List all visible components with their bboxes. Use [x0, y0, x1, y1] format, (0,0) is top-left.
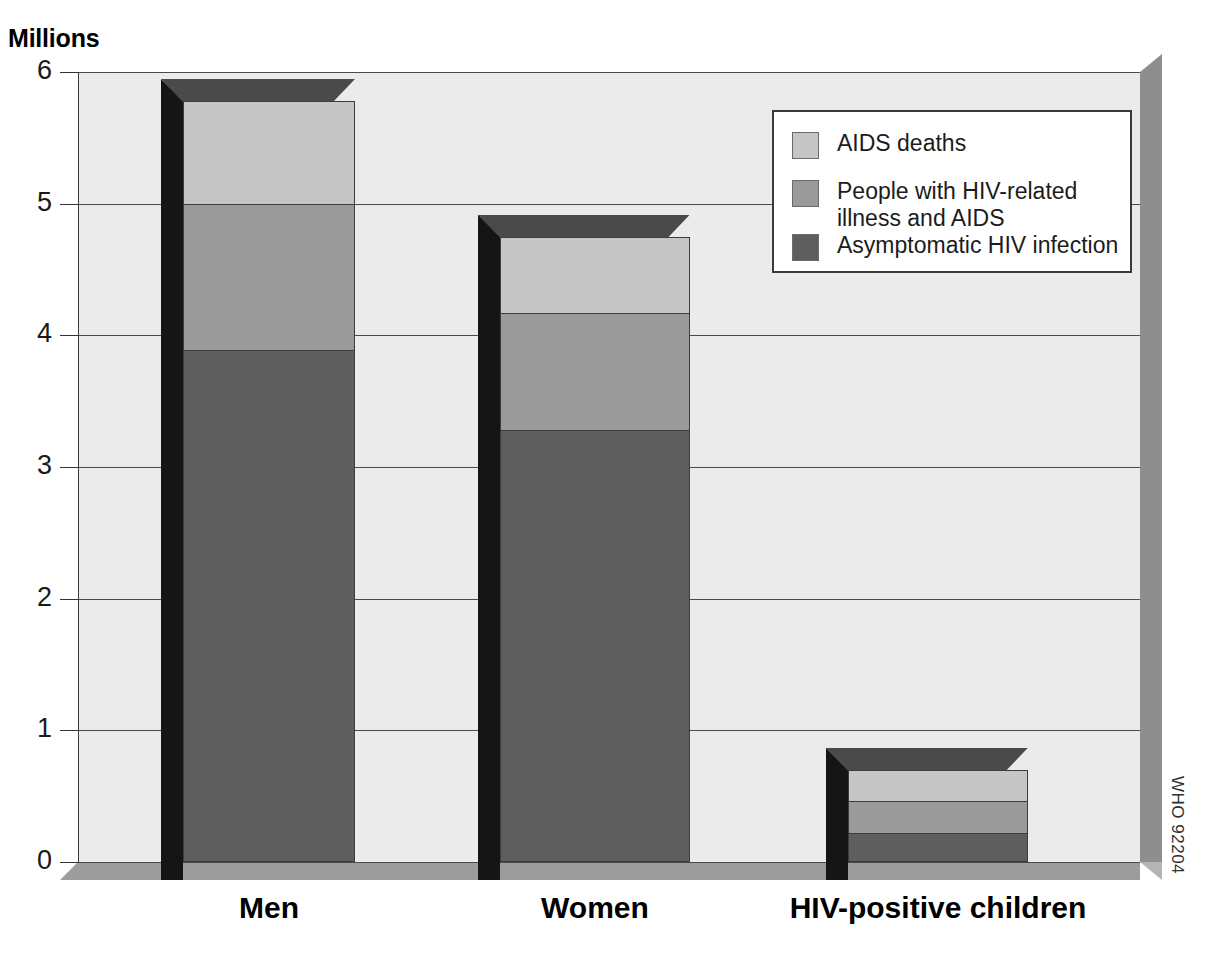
gridline [78, 862, 1140, 863]
bar-top-face [478, 215, 690, 238]
legend-item[interactable]: Asymptomatic HIV infection [792, 232, 1118, 261]
y-axis-unit-label: Millions [8, 26, 99, 51]
bar-side-face [478, 215, 500, 880]
y-axis-tick-label: 2 [14, 584, 52, 611]
plot-right-wall-top-bevel [1140, 54, 1162, 72]
plot-right-wall-bottom-bevel [1140, 862, 1162, 880]
y-axis-line [78, 72, 79, 863]
y-axis-tick [60, 862, 78, 863]
y-axis-tick [60, 599, 78, 600]
y-axis-tick [60, 335, 78, 336]
y-axis-tick [60, 467, 78, 468]
bar-top-face [161, 79, 355, 102]
bar-segment[interactable] [500, 313, 690, 430]
category-label: Women [395, 893, 795, 923]
legend-item[interactable]: People with HIV-related illness and AIDS [792, 178, 1077, 232]
plot-floor [78, 862, 1140, 880]
y-axis-tick [60, 204, 78, 205]
bar-segment[interactable] [183, 350, 355, 862]
plot-right-wall [1140, 72, 1162, 862]
bar-segment[interactable] [848, 801, 1028, 833]
plot-floor-left-bevel [60, 862, 78, 880]
bar-segment[interactable] [183, 204, 355, 350]
bar-segment[interactable] [848, 770, 1028, 802]
y-axis-tick-label: 1 [14, 715, 52, 742]
stacked-bar-chart: Millions 0123456 MenWomenHIV-positive ch… [0, 0, 1210, 967]
y-axis-tick-label: 6 [14, 57, 52, 84]
y-axis-tick [60, 730, 78, 731]
y-axis-tick-label: 0 [14, 847, 52, 874]
bar-segment[interactable] [848, 833, 1028, 862]
bar-segment[interactable] [183, 101, 355, 204]
bar-segment[interactable] [500, 430, 690, 862]
category-label: HIV-positive children [738, 893, 1138, 923]
legend-item-label: People with HIV-related illness and AIDS [837, 178, 1077, 232]
y-axis-tick-label: 3 [14, 452, 52, 479]
bar-segment[interactable] [500, 237, 690, 313]
legend-swatch-icon [792, 180, 819, 207]
legend-swatch-icon [792, 132, 819, 159]
legend-item-label: AIDS deaths [837, 130, 966, 157]
source-credit-label: WHO 92204 [1163, 776, 1187, 874]
bar-top-face [826, 748, 1028, 771]
legend-item-label: Asymptomatic HIV infection [837, 232, 1118, 259]
y-axis-tick [60, 72, 78, 73]
bar-side-face [161, 79, 183, 880]
legend: AIDS deathsPeople with HIV-related illne… [772, 110, 1132, 273]
gridline [78, 72, 1140, 73]
y-axis-tick-label: 5 [14, 189, 52, 216]
bar-side-face [826, 748, 848, 880]
legend-item[interactable]: AIDS deaths [792, 130, 966, 159]
legend-swatch-icon [792, 234, 819, 261]
y-axis-tick-label: 4 [14, 320, 52, 347]
